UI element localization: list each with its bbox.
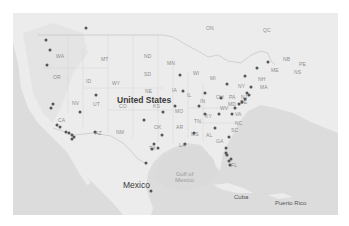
location-marker[interactable] [225,147,228,150]
region-label-wa: WA [56,54,64,59]
region-label-mt: MT [101,57,108,62]
region-label-nv: NV [72,101,79,106]
location-marker[interactable] [204,113,207,116]
map-basemap [13,13,338,215]
location-marker[interactable] [85,27,88,30]
location-marker[interactable] [50,107,53,110]
region-label-tn: TN [194,119,201,124]
region-label-ca: CA [58,118,65,123]
region-label-qc: QC [263,28,271,33]
location-marker[interactable] [151,148,154,151]
region-label-nm: NM [116,130,124,135]
region-label-nh: NH [258,77,265,82]
region-label-nc: NC [235,121,242,126]
location-marker[interactable] [59,126,62,129]
location-marker[interactable] [244,75,247,78]
location-marker[interactable] [218,113,221,116]
country-label-mexico: Mexico [123,181,150,190]
location-marker[interactable] [267,61,270,64]
region-label-in: IN [200,99,205,104]
location-marker[interactable] [193,132,196,135]
region-label-il: IL [187,93,191,98]
region-label-al: AL [206,133,212,138]
country-label-cuba: Cuba [234,194,248,200]
location-marker[interactable] [95,94,98,97]
water-label-gulf-of-mexico: Gulf of Mexico [175,171,194,184]
location-marker[interactable] [198,105,201,108]
location-marker[interactable] [71,138,74,141]
location-marker[interactable] [143,119,146,122]
location-marker[interactable] [94,131,97,134]
region-label-ns: NS [294,70,301,75]
region-label-va: VA [235,112,242,117]
location-marker[interactable] [241,101,244,104]
region-label-nb: NB [283,57,290,62]
region-label-on: ON [206,26,214,31]
region-label-ma: MA [260,85,268,90]
region-label-mn: MN [167,61,175,66]
location-marker[interactable] [248,94,251,97]
region-label-nd: ND [144,54,151,59]
region-label-fl: FL [231,163,237,168]
map-viewport[interactable]: WAORIDMTWYNVUTCAAZNMCONDSDNEKSOKTXMNIAMO… [13,13,338,215]
country-label-united-states: United States [117,96,171,105]
location-marker[interactable] [46,64,49,67]
location-marker[interactable] [234,107,237,110]
location-marker[interactable] [214,127,217,130]
region-label-wy: WY [112,81,120,86]
location-marker[interactable] [157,147,160,150]
region-label-ia: IA [172,88,177,93]
region-label-or: OR [53,75,61,80]
location-marker[interactable] [153,143,156,146]
location-marker[interactable] [231,113,234,116]
region-label-mi: MI [210,76,216,81]
location-marker[interactable] [145,162,148,165]
location-marker[interactable] [228,136,231,139]
region-label-ny: NY [238,84,245,89]
location-marker[interactable] [204,92,207,95]
location-marker[interactable] [174,105,177,108]
location-marker[interactable] [49,49,52,52]
location-marker[interactable] [162,111,165,114]
location-marker[interactable] [228,160,231,163]
location-marker[interactable] [184,143,187,146]
region-label-ar: AR [176,125,183,130]
region-label-me: ME [271,68,279,73]
location-marker[interactable] [226,154,229,157]
region-label-ok: OK [154,125,161,130]
location-marker[interactable] [52,103,55,106]
region-label-sc: SC [231,128,238,133]
water-label-line-2: Mexico [175,177,194,183]
region-label-pe: PE [299,62,306,67]
region-label-pa: PA [229,95,236,100]
location-marker[interactable] [229,164,232,167]
location-marker[interactable] [79,111,82,114]
location-marker[interactable] [179,74,182,77]
location-marker[interactable] [161,134,164,137]
region-label-id: ID [86,79,91,84]
location-marker[interactable] [256,67,259,70]
region-label-ut: UT [93,102,100,107]
region-label-wi: WI [193,71,199,76]
region-label-ne: NE [145,89,152,94]
region-label-sd: SD [144,72,151,77]
region-label-mo: MO [175,109,183,114]
location-marker[interactable] [250,86,253,89]
location-marker[interactable] [244,98,247,101]
location-marker[interactable] [226,83,229,86]
location-marker[interactable] [182,90,185,93]
location-marker[interactable] [220,97,223,100]
country-label-puerto-rico: Puerto Rico [275,200,306,206]
location-marker[interactable] [45,39,48,42]
region-label-ga: GA [216,139,223,144]
